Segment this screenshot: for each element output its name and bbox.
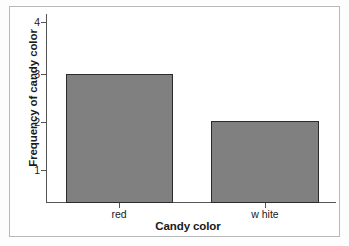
x-axis-tick-label-white: w hite (220, 208, 310, 220)
y-axis-tick-4 (41, 22, 47, 23)
y-axis-line (46, 14, 47, 203)
y-axis-tick-1 (41, 170, 47, 171)
y-axis-tick-3 (41, 74, 47, 75)
x-axis-tick-label-red: red (74, 208, 164, 220)
bar-chart-figure: Frequency of candy color 4 3 2 1 red w h… (0, 0, 349, 246)
x-axis-title: Candy color (40, 220, 336, 232)
y-axis-tick-label-2: 2 (0, 117, 40, 127)
y-axis-tick-label-3: 3 (0, 69, 40, 79)
y-axis-tick-label-4: 4 (0, 17, 40, 27)
y-axis-tick-label-1: 1 (0, 165, 40, 175)
bar-red[interactable] (66, 74, 173, 203)
bar-white[interactable] (211, 121, 319, 203)
y-axis-tick-2 (41, 122, 47, 123)
